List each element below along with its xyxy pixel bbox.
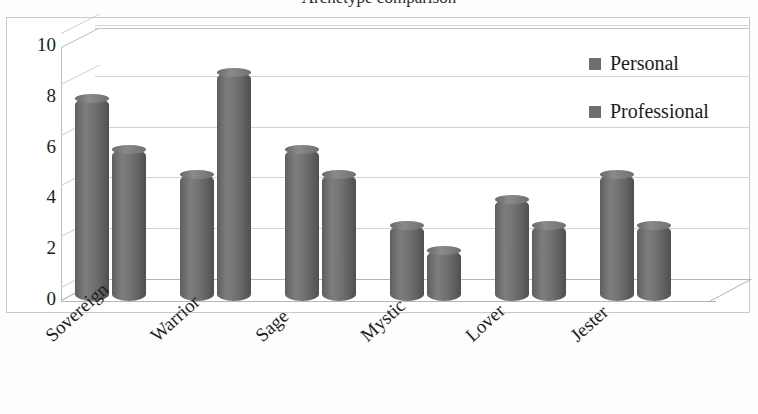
legend-item-professional[interactable]: Professional: [589, 100, 709, 123]
chart-container: Archetype comparison 0246810 SovereignWa…: [0, 0, 758, 414]
bar-cap: [285, 145, 319, 154]
bar-sage-professional: [322, 174, 356, 301]
bar-cap: [637, 221, 671, 230]
legend-swatch-icon: [589, 58, 601, 70]
bar-lover-professional: [532, 225, 566, 301]
bar-cap: [532, 221, 566, 230]
bar-cap: [75, 94, 109, 103]
bar-warrior-personal: [180, 174, 214, 301]
legend-label: Professional: [610, 100, 709, 123]
bar-sovereign-professional: [112, 149, 146, 301]
legend-label: Personal: [610, 52, 679, 75]
bar-cap: [217, 68, 251, 77]
bar-cap: [322, 170, 356, 179]
bar-sovereign-personal: [75, 98, 109, 301]
bar-cap: [600, 170, 634, 179]
bar-cap: [427, 246, 461, 255]
bar-mystic-personal: [390, 225, 424, 301]
bar-mystic-professional: [427, 250, 461, 301]
bar-sage-personal: [285, 149, 319, 301]
bar-cap: [495, 195, 529, 204]
bar-lover-personal: [495, 199, 529, 301]
legend-swatch-icon: [589, 106, 601, 118]
bar-jester-professional: [637, 225, 671, 301]
legend-item-personal[interactable]: Personal: [589, 52, 679, 75]
bar-cap: [112, 145, 146, 154]
bar-cap: [390, 221, 424, 230]
bar-jester-personal: [600, 174, 634, 301]
bar-warrior-professional: [217, 72, 251, 301]
bar-cap: [180, 170, 214, 179]
